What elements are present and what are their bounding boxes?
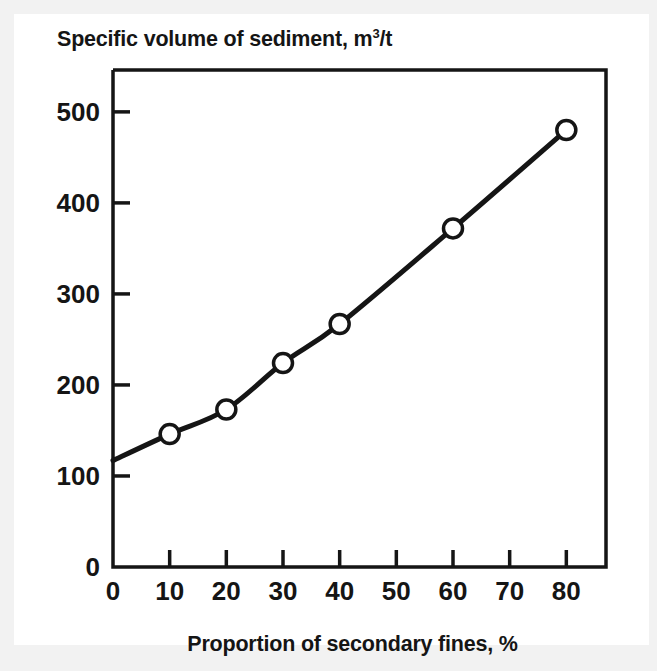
x-tick-label-10: 10	[155, 576, 184, 606]
data-point-marker	[444, 219, 463, 238]
plot-area: 0100200300400500 01020304050607080	[0, 0, 657, 671]
y-tick-label-400: 400	[57, 188, 100, 218]
x-axis-ticks	[170, 550, 567, 567]
data-point-marker	[217, 400, 236, 419]
x-axis-title: Proportion of secondary fines, %	[0, 632, 657, 657]
y-axis-ticks	[113, 112, 130, 476]
x-tick-label-50: 50	[382, 576, 411, 606]
y-tick-label-300: 300	[57, 279, 100, 309]
data-point-marker	[330, 314, 349, 333]
x-tick-label-0: 0	[106, 576, 120, 606]
series-markers	[160, 121, 576, 444]
data-point-marker	[274, 354, 293, 373]
x-tick-label-60: 60	[439, 576, 468, 606]
y-tick-label-200: 200	[57, 370, 100, 400]
x-tick-label-20: 20	[212, 576, 241, 606]
data-point-marker	[557, 121, 576, 140]
x-axis-tick-labels: 01020304050607080	[106, 576, 581, 606]
y-tick-label-0: 0	[86, 552, 100, 582]
axis-frame	[113, 70, 606, 567]
x-tick-label-30: 30	[269, 576, 298, 606]
data-series	[113, 121, 576, 461]
y-tick-label-100: 100	[57, 461, 100, 491]
data-point-marker	[160, 425, 179, 444]
y-tick-label-500: 500	[57, 97, 100, 127]
x-tick-label-40: 40	[325, 576, 354, 606]
y-axis-tick-labels: 0100200300400500	[57, 97, 100, 582]
figure-canvas: Specific volume of sediment, m3/t 010020…	[0, 0, 657, 671]
x-tick-label-70: 70	[495, 576, 524, 606]
x-tick-label-80: 80	[552, 576, 581, 606]
x-axis-title-label: Proportion of secondary fines, %	[139, 632, 517, 656]
series-line-sediment	[113, 130, 566, 460]
